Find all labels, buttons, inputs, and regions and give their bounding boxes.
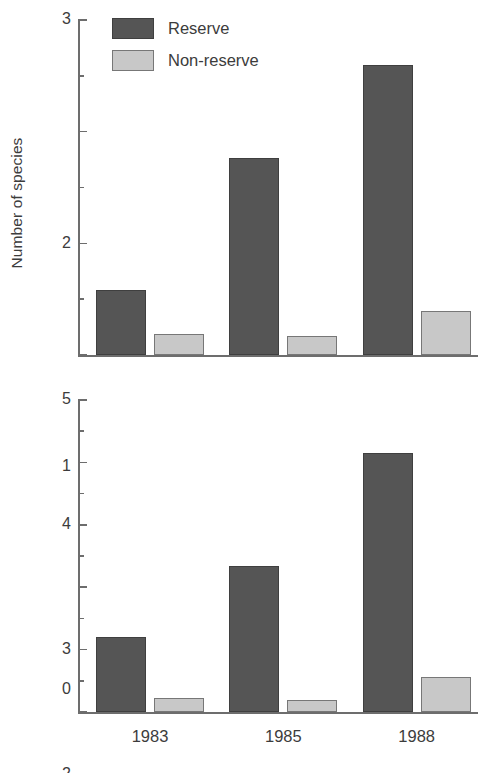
- y-tick-minor: [78, 187, 84, 189]
- bar-nonreserve-1988[interactable]: [421, 677, 471, 712]
- bar-reserve-1988[interactable]: [363, 65, 413, 355]
- y-axis-title-species-text: Number of species: [8, 137, 26, 268]
- y-tick-label: 4: [62, 516, 71, 532]
- nonreserve-swatch-icon: [112, 50, 154, 71]
- y-tick-major: 2: [78, 131, 87, 133]
- bar-nonreserve-1985[interactable]: [287, 700, 337, 712]
- y-tick-major: 0: [78, 354, 87, 356]
- y-tick-major: 2: [78, 586, 87, 588]
- y-tick-major: 1: [78, 243, 87, 245]
- chart-panel-individuals: Number of individuals 012345: [0, 385, 485, 773]
- bar-nonreserve-1983[interactable]: [154, 698, 204, 712]
- y-tick-label: 3: [62, 641, 71, 657]
- legend-label-reserve: Reserve: [168, 19, 229, 38]
- bar-nonreserve-1988[interactable]: [421, 311, 471, 355]
- y-tick-minor: [78, 680, 84, 682]
- x-axis-tick-labels: 198319851988: [78, 727, 478, 751]
- y-tick-minor: [78, 75, 84, 77]
- bar-reserve-1985[interactable]: [229, 566, 279, 712]
- y-tick-major: 5: [78, 399, 87, 401]
- y-tick-label: 3: [62, 11, 71, 27]
- y-tick-minor: [78, 493, 84, 495]
- x-tick-label-1983: 1983: [132, 727, 169, 746]
- bar-reserve-1985[interactable]: [229, 158, 279, 355]
- y-tick-label: 2: [62, 235, 71, 251]
- y-axis-title-species: Number of species: [0, 95, 34, 310]
- x-tick-label-1988: 1988: [398, 727, 435, 746]
- bar-nonreserve-1985[interactable]: [287, 336, 337, 355]
- y-tick-label: 2: [62, 766, 71, 773]
- chart-panel-species: Number of species 0123 Reserve Non-reser…: [0, 0, 485, 390]
- legend-item-nonreserve[interactable]: Non-reserve: [112, 46, 259, 75]
- bar-reserve-1983[interactable]: [96, 637, 146, 712]
- y-tick-major: 0: [78, 711, 87, 713]
- reserve-swatch-icon: [112, 18, 154, 39]
- x-tick-label-1985: 1985: [265, 727, 302, 746]
- y-tick-major: 3: [78, 19, 87, 21]
- legend-item-reserve[interactable]: Reserve: [112, 14, 259, 43]
- bar-nonreserve-1983[interactable]: [154, 334, 204, 355]
- legend-label-nonreserve: Non-reserve: [168, 51, 259, 70]
- legend: Reserve Non-reserve: [112, 14, 259, 78]
- y-tick-minor: [78, 555, 84, 557]
- bar-reserve-1983[interactable]: [96, 290, 146, 355]
- x-axis-spine-individuals: [78, 712, 478, 714]
- plot-area-individuals: 012345: [78, 400, 478, 712]
- figure-root: Number of species 0123 Reserve Non-reser…: [0, 0, 485, 773]
- y-tick-major: 1: [78, 649, 87, 651]
- y-tick-minor: [78, 618, 84, 620]
- y-tick-major: 3: [78, 524, 87, 526]
- y-tick-minor: [78, 298, 84, 300]
- y-tick-minor: [78, 430, 84, 432]
- y-tick-label: 5: [62, 391, 71, 407]
- y-tick-major: 4: [78, 462, 87, 464]
- x-axis-spine-species: [78, 355, 478, 357]
- bar-reserve-1988[interactable]: [363, 453, 413, 712]
